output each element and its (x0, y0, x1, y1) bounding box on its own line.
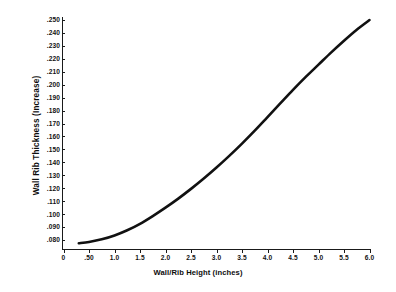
x-tick-mark (319, 250, 320, 253)
x-tick-label: 2.0 (161, 254, 170, 261)
x-tick-label: 6.0 (365, 254, 374, 261)
x-tick-mark (242, 250, 243, 253)
y-tick-mark (62, 227, 65, 228)
x-tick-label: .50 (84, 254, 93, 261)
x-tick-label: 1.5 (135, 254, 144, 261)
x-tick-mark (89, 250, 90, 253)
x-tick-mark (344, 250, 345, 253)
x-tick-mark (370, 250, 371, 253)
y-tick-mark (62, 162, 65, 163)
x-tick-mark (217, 250, 218, 253)
x-tick-mark (166, 250, 167, 253)
x-tick-mark (115, 250, 116, 253)
y-tick-mark (62, 201, 65, 202)
x-tick-mark (293, 250, 294, 253)
x-tick-label: 0 (62, 254, 66, 261)
y-tick-mark (62, 33, 65, 34)
y-tick-mark (62, 175, 65, 176)
y-tick-mark (62, 240, 65, 241)
y-tick-mark (62, 59, 65, 60)
x-tick-label: 1.0 (110, 254, 119, 261)
x-axis-tick-labels: 0.501.01.52.02.53.03.54.04.55.05.56.0 (0, 0, 396, 292)
x-axis-title: Wall/Rib Height (inches) (0, 268, 396, 277)
x-tick-mark (191, 250, 192, 253)
x-tick-label: 4.5 (288, 254, 297, 261)
y-tick-mark (62, 111, 65, 112)
y-tick-mark (62, 149, 65, 150)
x-tick-label: 4.0 (263, 254, 272, 261)
y-tick-mark (62, 124, 65, 125)
x-tick-mark (140, 250, 141, 253)
y-tick-mark (62, 136, 65, 137)
y-tick-mark (62, 20, 65, 21)
y-tick-mark (62, 72, 65, 73)
x-tick-label: 2.5 (186, 254, 195, 261)
x-tick-label: 3.5 (237, 254, 246, 261)
chart-container: Wall Rib Thickness (Increase) .250.240.2… (0, 0, 396, 292)
y-tick-mark (62, 98, 65, 99)
x-tick-mark (268, 250, 269, 253)
x-tick-label: 5.0 (314, 254, 323, 261)
y-tick-mark (62, 85, 65, 86)
y-tick-mark (62, 188, 65, 189)
y-tick-mark (62, 214, 65, 215)
y-tick-mark (62, 46, 65, 47)
x-tick-label: 3.0 (212, 254, 221, 261)
x-tick-label: 5.5 (339, 254, 348, 261)
x-tick-mark (64, 250, 65, 253)
